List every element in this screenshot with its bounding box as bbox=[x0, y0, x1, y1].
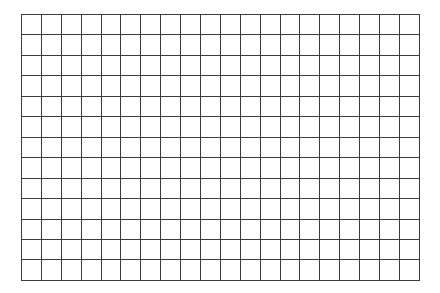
grid-cell[interactable] bbox=[181, 219, 201, 239]
grid-cell[interactable] bbox=[240, 178, 260, 198]
grid-cell[interactable] bbox=[360, 199, 380, 219]
grid-cell[interactable] bbox=[101, 199, 121, 219]
grid-cell[interactable] bbox=[121, 15, 141, 35]
grid-cell[interactable] bbox=[201, 158, 221, 178]
grid-cell[interactable] bbox=[201, 76, 221, 96]
grid-cell[interactable] bbox=[240, 76, 260, 96]
grid-cell[interactable] bbox=[320, 219, 340, 239]
grid-cell[interactable] bbox=[280, 239, 300, 259]
grid-cell[interactable] bbox=[81, 178, 101, 198]
grid-cell[interactable] bbox=[280, 15, 300, 35]
grid-cell[interactable] bbox=[101, 117, 121, 137]
grid-cell[interactable] bbox=[161, 76, 181, 96]
grid-cell[interactable] bbox=[320, 137, 340, 157]
grid-cell[interactable] bbox=[181, 178, 201, 198]
grid-cell[interactable] bbox=[81, 55, 101, 75]
grid-cell[interactable] bbox=[220, 260, 240, 280]
grid-cell[interactable] bbox=[61, 219, 81, 239]
grid-cell[interactable] bbox=[280, 158, 300, 178]
grid-cell[interactable] bbox=[161, 158, 181, 178]
grid-cell[interactable] bbox=[320, 199, 340, 219]
grid-cell[interactable] bbox=[22, 117, 42, 137]
grid-cell[interactable] bbox=[81, 137, 101, 157]
grid-cell[interactable] bbox=[161, 15, 181, 35]
grid-cell[interactable] bbox=[181, 35, 201, 55]
grid-cell[interactable] bbox=[340, 260, 360, 280]
grid-cell[interactable] bbox=[300, 55, 320, 75]
grid-cell[interactable] bbox=[201, 117, 221, 137]
grid-cell[interactable] bbox=[360, 137, 380, 157]
grid-cell[interactable] bbox=[81, 260, 101, 280]
grid-cell[interactable] bbox=[260, 137, 280, 157]
grid-cell[interactable] bbox=[201, 239, 221, 259]
grid-cell[interactable] bbox=[181, 15, 201, 35]
grid-cell[interactable] bbox=[41, 199, 61, 219]
grid-cell[interactable] bbox=[260, 35, 280, 55]
grid-cell[interactable] bbox=[201, 178, 221, 198]
grid-cell[interactable] bbox=[300, 199, 320, 219]
grid-cell[interactable] bbox=[22, 96, 42, 116]
grid-cell[interactable] bbox=[260, 55, 280, 75]
grid-cell[interactable] bbox=[280, 137, 300, 157]
grid-cell[interactable] bbox=[240, 260, 260, 280]
grid-cell[interactable] bbox=[201, 35, 221, 55]
grid-cell[interactable] bbox=[340, 96, 360, 116]
grid-cell[interactable] bbox=[61, 15, 81, 35]
grid-cell[interactable] bbox=[380, 96, 400, 116]
grid-cell[interactable] bbox=[121, 137, 141, 157]
grid-cell[interactable] bbox=[41, 55, 61, 75]
grid-cell[interactable] bbox=[61, 137, 81, 157]
grid-cell[interactable] bbox=[101, 76, 121, 96]
grid-cell[interactable] bbox=[220, 55, 240, 75]
grid-cell[interactable] bbox=[380, 117, 400, 137]
grid-cell[interactable] bbox=[260, 260, 280, 280]
grid-cell[interactable] bbox=[240, 117, 260, 137]
grid-cell[interactable] bbox=[340, 117, 360, 137]
grid-cell[interactable] bbox=[61, 76, 81, 96]
grid-cell[interactable] bbox=[320, 260, 340, 280]
grid-cell[interactable] bbox=[22, 158, 42, 178]
grid-cell[interactable] bbox=[320, 76, 340, 96]
grid-cell[interactable] bbox=[22, 76, 42, 96]
grid-cell[interactable] bbox=[101, 219, 121, 239]
grid-cell[interactable] bbox=[81, 35, 101, 55]
grid-cell[interactable] bbox=[300, 35, 320, 55]
grid-cell[interactable] bbox=[260, 158, 280, 178]
grid-cell[interactable] bbox=[399, 199, 419, 219]
grid-cell[interactable] bbox=[320, 96, 340, 116]
grid-cell[interactable] bbox=[41, 158, 61, 178]
grid-cell[interactable] bbox=[399, 239, 419, 259]
grid-cell[interactable] bbox=[141, 199, 161, 219]
grid-cell[interactable] bbox=[220, 137, 240, 157]
grid-cell[interactable] bbox=[101, 35, 121, 55]
grid-cell[interactable] bbox=[22, 15, 42, 35]
grid-cell[interactable] bbox=[101, 137, 121, 157]
grid-cell[interactable] bbox=[220, 15, 240, 35]
grid-cell[interactable] bbox=[121, 239, 141, 259]
grid-cell[interactable] bbox=[121, 158, 141, 178]
grid-cell[interactable] bbox=[320, 239, 340, 259]
grid-cell[interactable] bbox=[181, 199, 201, 219]
grid-cell[interactable] bbox=[280, 117, 300, 137]
grid-cell[interactable] bbox=[121, 260, 141, 280]
grid-cell[interactable] bbox=[340, 178, 360, 198]
grid-cell[interactable] bbox=[220, 76, 240, 96]
grid-cell[interactable] bbox=[300, 158, 320, 178]
grid-cell[interactable] bbox=[181, 117, 201, 137]
grid-cell[interactable] bbox=[181, 239, 201, 259]
grid-cell[interactable] bbox=[300, 178, 320, 198]
grid-cell[interactable] bbox=[181, 55, 201, 75]
grid-cell[interactable] bbox=[41, 137, 61, 157]
grid-cell[interactable] bbox=[399, 137, 419, 157]
grid-cell[interactable] bbox=[121, 35, 141, 55]
grid-cell[interactable] bbox=[141, 117, 161, 137]
grid-cell[interactable] bbox=[61, 117, 81, 137]
grid-cell[interactable] bbox=[161, 96, 181, 116]
grid-cell[interactable] bbox=[22, 239, 42, 259]
grid-cell[interactable] bbox=[121, 219, 141, 239]
grid-cell[interactable] bbox=[161, 178, 181, 198]
grid-cell[interactable] bbox=[380, 239, 400, 259]
grid-cell[interactable] bbox=[360, 178, 380, 198]
grid-cell[interactable] bbox=[161, 239, 181, 259]
grid-cell[interactable] bbox=[181, 137, 201, 157]
